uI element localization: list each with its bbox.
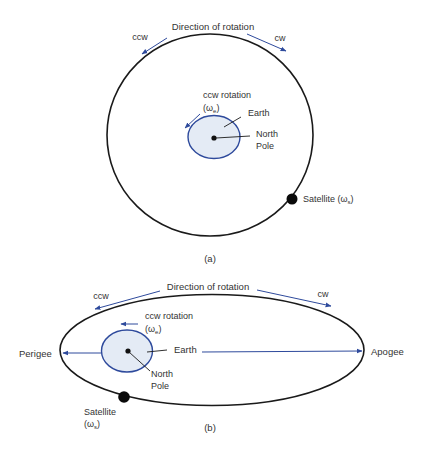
cw-label: cw [318, 289, 330, 299]
caption-b: (b) [204, 422, 216, 433]
satellite-dot [287, 194, 298, 205]
satellite-dot [118, 391, 130, 403]
satellite-omega-label: (ωs) [84, 419, 100, 430]
earth-omega-label: (ωe) [203, 103, 219, 114]
apogee-label: Apogee [371, 346, 404, 357]
apogee-arrow-icon [202, 351, 362, 352]
north-pole-dot [211, 135, 216, 140]
earth-ccw-rotation-label: ccw rotation [203, 90, 251, 100]
panel-a-circular-orbit: Direction of rotation ccw cw ccw rotatio… [107, 21, 354, 264]
earth-label: Earth [174, 344, 197, 355]
panel-b-elliptical-orbit: Direction of rotation ccw cw ccw rotatio… [19, 281, 404, 433]
pole-label: Pole [151, 381, 169, 391]
north-label: North [151, 369, 173, 379]
satellite-label: Satellite (ωs) [303, 194, 354, 205]
north-label: North [256, 129, 278, 139]
ccw-label: ccw [132, 32, 148, 42]
cw-label: cw [275, 33, 287, 43]
ccw-label: ccw [93, 291, 109, 301]
direction-of-rotation-label: Direction of rotation [167, 281, 249, 292]
earth-omega-label: (ωe) [145, 324, 161, 335]
earth-ccw-rotation-label: ccw rotation [145, 311, 193, 321]
caption-a: (a) [204, 253, 216, 264]
earth-label: Earth [248, 108, 270, 118]
pole-label: Pole [256, 141, 274, 151]
direction-of-rotation-label: Direction of rotation [172, 21, 254, 32]
orbit-diagram: Direction of rotation ccw cw ccw rotatio… [0, 0, 427, 455]
perigee-label: Perigee [19, 348, 52, 359]
satellite-label: Satellite [84, 407, 116, 417]
